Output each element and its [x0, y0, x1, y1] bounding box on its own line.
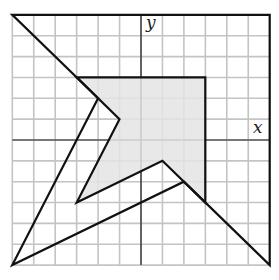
y-axis-label: y: [145, 12, 156, 32]
coordinate-plane: y x: [0, 0, 279, 280]
x-axis-label: x: [253, 117, 263, 137]
